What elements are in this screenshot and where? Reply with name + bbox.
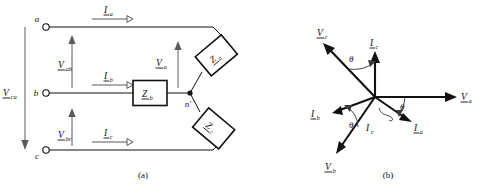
wire-phase-c (49, 137, 226, 150)
terminal-label-a: a (35, 14, 40, 24)
theta-label-c: θ (349, 54, 354, 64)
phasor-vc-subscript: c (325, 33, 328, 40)
voltage-label-vbc: V bc (58, 130, 72, 142)
phasor-vector-va (375, 92, 457, 102)
vbc-subscript: bc (66, 135, 72, 142)
terminal-c-circle (43, 147, 49, 153)
phasor-va-subscript: a (469, 97, 473, 104)
vab-symbol: V (58, 60, 65, 70)
ic-arrow-head (127, 139, 133, 146)
phasor-vc-symbol: V (317, 28, 324, 38)
phasor-ic-symbol: I (369, 38, 374, 48)
va-vector-head (445, 92, 457, 102)
phasor-ic-leader-symbol: I (365, 123, 370, 133)
voltage-arrow-vab (68, 35, 75, 88)
figure-svg: a b c n' V ab V bc (0, 0, 481, 185)
phasor-vector-ia (375, 97, 412, 122)
terminal-a-circle (43, 24, 49, 30)
vab-subscript: ab (66, 65, 73, 72)
current-label-ib: I b (103, 71, 114, 83)
phasor-vb-symbol: V (325, 162, 332, 172)
phasor-ib-subscript: b (317, 114, 321, 121)
theta-label-b: θ (349, 120, 354, 130)
phasor-label-ia: I a (413, 123, 424, 135)
phasor-label-va: V a (461, 92, 473, 104)
wire-n-to-za (190, 72, 202, 93)
voltage-label-vab: V ab (58, 60, 73, 72)
vab-arrow-head (68, 35, 75, 44)
current-arrow-ia (92, 16, 133, 23)
phasor-label-ic: I c (369, 38, 379, 50)
voltage-label-va: V a (156, 58, 168, 70)
caption-b: (b) (383, 170, 394, 180)
theta-label-a: θ (400, 102, 405, 112)
va-arrow-head (174, 41, 181, 50)
vca-arrow-head (21, 140, 28, 150)
phasor-va-symbol: V (461, 92, 468, 102)
ic-leader-curve (379, 108, 393, 121)
ib-symbol: I (103, 71, 108, 81)
ic-subscript: c (110, 133, 113, 140)
phasor-ic-leader-subscript: c (371, 128, 374, 135)
impedance-za: Z a (195, 35, 237, 76)
phasor-diagram: V a V c V b (310, 28, 473, 180)
phasor-label-ib: I b (310, 109, 321, 121)
phasor-vb-subscript: b (333, 167, 337, 174)
current-arrow-ic (92, 139, 133, 146)
phasor-label-vc: V c (317, 28, 328, 40)
voltage-arrow-va (174, 41, 181, 88)
circuit-diagram: a b c n' V ab V bc (3, 5, 238, 180)
phasor-label-ic-leader: I c (365, 123, 374, 135)
voltage-label-vca: V ca (3, 88, 18, 100)
vbc-symbol: V (58, 130, 65, 140)
ia-arrow-head (127, 16, 133, 23)
caption-a: (a) (138, 170, 148, 180)
current-label-ia: I a (103, 5, 114, 17)
impedance-zb: Z b (133, 81, 167, 106)
current-label-ic: I c (103, 128, 113, 140)
ia-symbol: I (103, 5, 108, 15)
voltage-arrow-vca (21, 27, 28, 150)
ib-vector-head (332, 106, 343, 115)
phasor-ia-symbol: I (413, 123, 418, 133)
figure-root: a b c n' V ab V bc (0, 0, 481, 185)
terminal-label-c: c (35, 151, 39, 161)
ia-subscript: a (110, 10, 114, 17)
phasor-vector-vc (323, 43, 375, 97)
terminal-b-circle (43, 90, 49, 96)
wire-n-to-zc (190, 93, 200, 112)
terminal-label-b: b (34, 88, 39, 98)
va-subscript: a (164, 63, 168, 70)
zb-symbol: Z (142, 89, 148, 99)
ib-arrow-head (127, 82, 133, 89)
vca-subscript: ca (11, 93, 18, 100)
wire-phase-a (49, 27, 228, 42)
ic-symbol: I (103, 128, 108, 138)
phasor-ib-symbol: I (310, 109, 315, 119)
neutral-node-dot (187, 90, 192, 95)
phasor-ic-subscript: c (376, 43, 379, 50)
va-symbol: V (156, 58, 163, 68)
phasor-ia-subscript: a (420, 128, 424, 135)
neutral-node-label: n' (185, 99, 193, 109)
current-arrow-ib (92, 82, 133, 89)
vca-symbol: V (3, 88, 10, 98)
phasor-vector-ic (370, 51, 380, 97)
impedance-zc: Z c (193, 108, 235, 149)
vbc-arrow-head (68, 108, 75, 117)
phasor-label-vb: V b (325, 162, 337, 174)
ib-subscript: b (110, 76, 114, 83)
